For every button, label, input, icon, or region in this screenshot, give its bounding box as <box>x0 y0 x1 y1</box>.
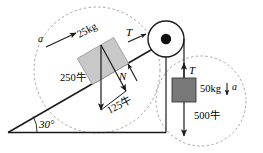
incline-acceleration-arrow <box>46 33 76 47</box>
hanging-tension-label: T <box>189 64 196 76</box>
hanging-weight-label-500: 500牛 <box>194 109 220 121</box>
incline-acceleration-label: a <box>38 33 43 44</box>
angle-arc <box>33 117 37 133</box>
hanging-block <box>172 78 196 102</box>
diagram-canvas: 30° a 25kg 250牛 125牛 N T T <box>0 0 263 153</box>
physics-diagram: 30° a 25kg 250牛 125牛 N T T <box>0 0 263 153</box>
incline-tension-label: T <box>126 26 133 38</box>
pulley-hub-icon <box>161 34 171 44</box>
normal-force-arrow <box>128 64 137 81</box>
normal-force-label: N <box>118 70 127 82</box>
hanging-acceleration-label: a <box>232 81 237 92</box>
dashed-circle-hanging-system <box>156 56 246 146</box>
incline-block-mass-label: 25kg <box>75 20 99 40</box>
weight-label-250: 250牛 <box>60 71 86 83</box>
incline-angle-label: 30° <box>38 118 55 130</box>
hanging-block-mass-label: 50kg <box>200 83 222 94</box>
